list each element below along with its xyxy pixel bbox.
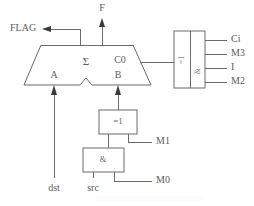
control-box-left-cell-label: =1	[177, 56, 186, 65]
m0-control-label: M0	[156, 174, 170, 185]
control-box-left-cell-label-group: =1	[177, 56, 186, 65]
control-pin-label-m3: M3	[231, 47, 245, 58]
alu-sigma-label: Σ	[83, 55, 89, 67]
dst-input-wire	[51, 85, 57, 178]
b-input-wire	[115, 85, 121, 110]
alu-input-a-label: A	[50, 69, 58, 80]
alu-input-b-label: B	[115, 69, 122, 80]
flag-output-label: FLAG	[10, 22, 36, 33]
result-output-wire	[99, 18, 105, 45]
alu-carry-out-label: C0	[114, 54, 126, 65]
circuit-diagram: Σ A B C0 F FLAG =1 &	[0, 0, 254, 206]
flag-wire	[47, 29, 80, 45]
control-box-right-cell-label: &	[193, 67, 202, 74]
b-input-arrowhead	[115, 85, 121, 95]
m1-control-wire	[128, 134, 152, 142]
flag-output-wire	[42, 26, 80, 45]
a-input-arrowhead	[51, 85, 57, 95]
alu-right-slope	[133, 45, 151, 85]
alu-left-slope	[24, 45, 41, 85]
control-pin-label-i: I	[231, 61, 234, 72]
control-pin-label-m2: M2	[231, 75, 245, 86]
diagram-canvas: Σ A B C0 F FLAG =1 &	[0, 0, 254, 206]
dst-input-label: dst	[48, 182, 60, 193]
control-box-right-cell-label-group: &	[193, 67, 202, 74]
page-artifact	[96, 196, 204, 201]
result-output-label: F	[99, 2, 105, 13]
m0-control-wire	[114, 172, 152, 181]
src-input-label: src	[87, 182, 99, 193]
m1-control-label: M1	[156, 135, 170, 146]
xor-gate-label: =1	[113, 116, 123, 126]
and-gate-label: &	[99, 154, 106, 164]
control-pin-label-ci: Ci	[231, 33, 241, 44]
alu-bottom-edge-with-notch	[24, 78, 151, 85]
f-arrowhead	[99, 18, 105, 27]
flag-arrowhead	[42, 26, 51, 32]
